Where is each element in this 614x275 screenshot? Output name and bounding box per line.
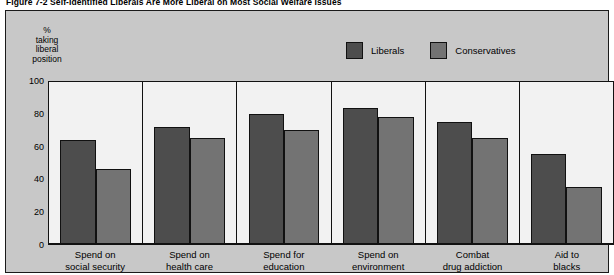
bar-group-3: [237, 82, 331, 243]
x-label-5-line-1: Combat: [425, 249, 519, 261]
x-label-6-line-2: blacks: [520, 261, 614, 273]
y-axis-caption: % taking liberal position: [16, 26, 78, 64]
x-label-4-line-1: Spend on: [331, 249, 425, 261]
bar-pair: [154, 82, 225, 243]
x-label-5: Combatdrug addiction: [425, 249, 519, 272]
bar-liberals-6: [531, 154, 566, 243]
x-label-4-line-2: environment: [331, 261, 425, 273]
bar-group-5: [426, 82, 520, 243]
bar-group-6: [520, 82, 613, 243]
bar-liberals-2: [154, 127, 189, 243]
bar-conservatives-5: [472, 138, 507, 243]
bar-pair: [437, 82, 508, 243]
legend-entry-conservatives: Conservatives: [430, 42, 515, 59]
y-tick-40: 40: [12, 174, 44, 184]
x-label-1-line-2: social security: [48, 261, 142, 273]
bar-conservatives-6: [566, 187, 601, 243]
bar-pair: [60, 82, 131, 243]
bar-liberals-4: [343, 108, 378, 243]
bar-liberals-3: [249, 114, 284, 243]
y-tick-80: 80: [12, 109, 44, 119]
x-label-2-line-1: Spend on: [142, 249, 236, 261]
bar-pair: [531, 82, 602, 243]
bar-group-1: [49, 82, 143, 243]
legend-entry-liberals: Liberals: [346, 42, 404, 59]
legend-swatch-conservatives: [430, 42, 447, 59]
y-tick-60: 60: [12, 142, 44, 152]
bar-liberals-1: [60, 140, 95, 243]
y-tick-100: 100: [12, 76, 44, 86]
bar-liberals-5: [437, 122, 472, 243]
x-axis-tick-labels: Spend onsocial securitySpend onhealth ca…: [48, 249, 614, 272]
bar-conservatives-3: [284, 130, 319, 243]
bar-group-4: [332, 82, 426, 243]
x-label-6-line-1: Aid to: [520, 249, 614, 261]
x-label-2: Spend onhealth care: [142, 249, 236, 272]
legend-swatch-liberals: [346, 42, 363, 59]
x-label-5-line-2: drug addiction: [425, 261, 519, 273]
x-label-3: Spend foreducation: [237, 249, 331, 272]
x-label-1-line-1: Spend on: [48, 249, 142, 261]
y-tick-20: 20: [12, 207, 44, 217]
bar-pair: [343, 82, 414, 243]
bar-conservatives-2: [190, 138, 225, 243]
x-label-6: Aid toblacks: [520, 249, 614, 272]
bar-group-2: [143, 82, 237, 243]
chart-frame: % taking liberal position Liberals Conse…: [5, 10, 609, 273]
x-label-3-line-1: Spend for: [237, 249, 331, 261]
x-label-3-line-2: education: [237, 261, 331, 273]
x-label-1: Spend onsocial security: [48, 249, 142, 272]
y-tick-0: 0: [12, 240, 44, 250]
chart-legend: Liberals Conservatives: [346, 42, 515, 59]
legend-label-liberals: Liberals: [371, 45, 404, 56]
x-label-4: Spend onenvironment: [331, 249, 425, 272]
x-label-2-line-2: health care: [142, 261, 236, 273]
bar-pair: [249, 82, 320, 243]
figure-title: Figure 7-2 Self-Identified Liberals Are …: [6, 0, 342, 7]
bar-conservatives-1: [96, 169, 131, 243]
legend-label-conservatives: Conservatives: [455, 45, 515, 56]
bar-conservatives-4: [378, 117, 413, 243]
plot-panel: [48, 81, 614, 245]
y-axis-tick-labels: 100806040200: [12, 81, 44, 245]
y-axis-caption-line-4: position: [16, 55, 78, 65]
